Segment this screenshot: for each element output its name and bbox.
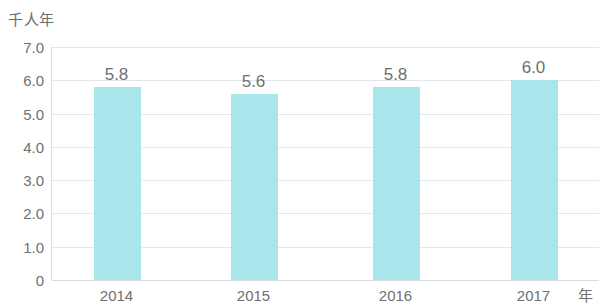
bar-2014[interactable]	[94, 87, 141, 280]
y-axis-tick-label: 1.0	[0, 240, 44, 255]
x-axis-tick-label: 2017	[496, 288, 571, 303]
bar-value-label: 5.8	[81, 66, 152, 83]
bar-value-label: 5.6	[218, 73, 289, 90]
y-axis-tick-label: 6.0	[0, 73, 44, 88]
y-axis-tick-label: 7.0	[0, 40, 44, 55]
y-axis-tick-label: 4.0	[0, 140, 44, 155]
gridline	[52, 47, 599, 48]
bar-chart: 千人年 01.02.03.04.05.06.07.0 2014201520162…	[0, 0, 599, 304]
x-axis-tick-label: 2015	[216, 288, 291, 303]
y-axis-tick-labels: 01.02.03.04.05.06.07.0	[0, 0, 46, 304]
y-axis-tick-label: 0	[0, 273, 44, 288]
bar-value-label: 6.0	[498, 59, 569, 76]
y-axis-tick-label: 5.0	[0, 107, 44, 122]
y-axis-tick-label: 3.0	[0, 173, 44, 188]
x-axis-tick-label: 2014	[79, 288, 154, 303]
bar-value-label: 5.8	[360, 66, 431, 83]
x-axis-unit-label: 年	[578, 288, 593, 303]
y-axis-tick-label: 2.0	[0, 206, 44, 221]
bar-2016[interactable]	[373, 87, 420, 280]
x-axis-tick-label: 2016	[358, 288, 433, 303]
bar-2017[interactable]	[511, 80, 558, 280]
gridline	[52, 280, 599, 281]
bar-2015[interactable]	[231, 94, 278, 280]
